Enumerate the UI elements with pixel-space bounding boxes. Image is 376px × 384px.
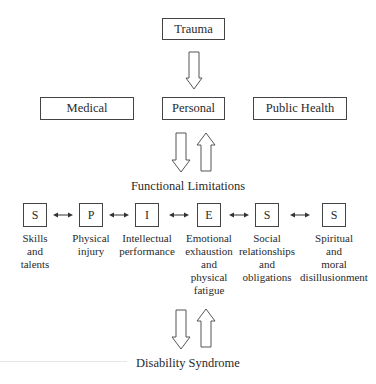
- bidirectional-arrow-icon: [169, 212, 189, 218]
- functional-limitations-title: Functional Limitations: [88, 179, 288, 194]
- bidirectional-arrow-icon: [290, 212, 310, 218]
- limitation-letter: S: [264, 208, 271, 223]
- medical-box: Medical: [40, 97, 134, 120]
- limitation-box-spiritual: S: [322, 203, 346, 227]
- limitation-description-social: Social relationships and obligations: [234, 232, 300, 284]
- limitation-description-emotional: Emotional exhaustion and physical fatigu…: [176, 232, 242, 297]
- personal-label: Personal: [172, 101, 215, 116]
- limitation-letter: P: [88, 208, 95, 223]
- limitation-box-physical: P: [79, 203, 103, 227]
- bidirectional-arrow-icon: [229, 212, 249, 218]
- up-arrow-icon: [197, 133, 217, 173]
- limitation-letter: I: [145, 208, 149, 223]
- limitation-box-intellectual: I: [135, 203, 159, 227]
- trauma-box: Trauma: [162, 18, 225, 40]
- public-health-box: Public Health: [253, 97, 347, 120]
- trauma-label: Trauma: [174, 22, 212, 37]
- public-health-label: Public Health: [266, 101, 334, 116]
- limitation-letter: S: [331, 208, 338, 223]
- limitation-box-social: S: [255, 203, 279, 227]
- down-arrow-icon: [172, 310, 192, 350]
- limitation-description-physical: Physical injury: [61, 232, 121, 258]
- down-arrow-icon: [172, 133, 192, 173]
- medical-label: Medical: [67, 101, 108, 116]
- up-arrow-icon: [197, 309, 217, 349]
- limitation-description-intellectual: Intellectual performance: [117, 232, 177, 258]
- limitation-description-spiritual: Spiritual and moral disillusionment: [297, 232, 371, 284]
- limitation-box-skills: S: [23, 203, 47, 227]
- down-arrow-icon: [183, 52, 203, 90]
- bidirectional-arrow-icon: [109, 212, 129, 218]
- limitation-box-emotional: E: [197, 203, 221, 227]
- bidirectional-arrow-icon: [53, 212, 73, 218]
- limitation-letter: E: [205, 208, 212, 223]
- limitation-letter: S: [32, 208, 39, 223]
- limitation-description-skills: Skills and talents: [5, 232, 65, 271]
- disability-syndrome-title: Disability Syndrome: [88, 356, 288, 371]
- personal-box: Personal: [162, 97, 225, 120]
